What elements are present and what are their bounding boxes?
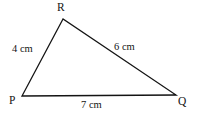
side-length-label-rq: 6 cm [114,42,135,53]
vertex-label-r: R [57,2,65,14]
triangle-path [22,19,176,96]
side-length-label-pr: 4 cm [12,44,33,55]
triangle-figure: R P Q 4 cm 6 cm 7 cm [0,0,197,117]
vertex-label-q: Q [178,96,186,108]
vertex-label-p: P [9,95,15,107]
side-length-label-pq: 7 cm [81,100,102,111]
